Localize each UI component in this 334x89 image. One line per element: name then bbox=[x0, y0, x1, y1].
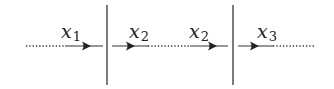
label-subscript: 3 bbox=[269, 29, 277, 44]
label-var: x bbox=[257, 20, 268, 42]
label-subscript: 2 bbox=[201, 29, 209, 44]
label-var: x bbox=[129, 20, 140, 42]
label-x2-right: x2 bbox=[189, 22, 209, 43]
diagram-lines bbox=[0, 0, 334, 89]
label-subscript: 1 bbox=[73, 29, 81, 44]
label-subscript: 2 bbox=[141, 29, 149, 44]
diagram-canvas: x1 x2 x2 x3 bbox=[0, 0, 334, 89]
label-x2-left: x2 bbox=[129, 22, 149, 43]
label-var: x bbox=[61, 20, 72, 42]
label-x3: x3 bbox=[257, 22, 277, 43]
label-x1: x1 bbox=[61, 22, 81, 43]
label-var: x bbox=[189, 20, 200, 42]
